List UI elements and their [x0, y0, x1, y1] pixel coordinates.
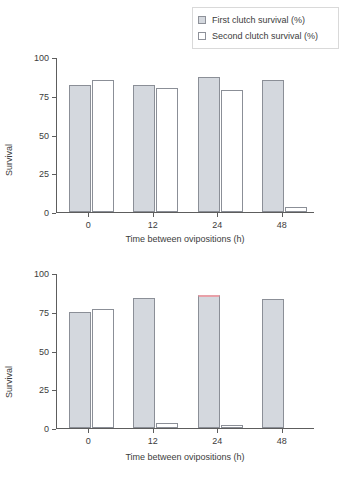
bar-bottom-48h-series1: [262, 299, 284, 428]
bar-top-12h-series2: [156, 88, 178, 212]
x-tick-48: [282, 213, 283, 217]
legend-label-first-clutch: First clutch survival (%): [212, 15, 305, 25]
y-tick-25: [52, 174, 56, 175]
y-tick-100: [52, 58, 56, 59]
x-axis-line-bottom: [56, 428, 314, 429]
y-tick-0: [52, 429, 56, 430]
y-tick-label-0: 0: [44, 209, 49, 218]
y-tick-label-25: 25: [39, 386, 49, 395]
x-tick-0: [88, 429, 89, 433]
plot-area-bottom: 02550751000122448: [56, 274, 314, 429]
bar-bottom-12h-series2: [156, 423, 178, 428]
y-tick-75: [52, 313, 56, 314]
y-tick-0: [52, 213, 56, 214]
bar-bottom-0h-series1: [69, 312, 91, 428]
x-tick-label-12: 12: [148, 437, 158, 446]
y-tick-label-75: 75: [39, 309, 49, 318]
chart-panel-bottom: Survival 02550751000122448 Time between …: [0, 262, 342, 478]
y-tick-label-75: 75: [39, 93, 49, 102]
chart-panel-top: Survival 02550751000122448 Time between …: [0, 46, 342, 254]
x-tick-0: [88, 213, 89, 217]
bar-top-0h-series2: [92, 80, 114, 212]
bar-top-24h-series2: [221, 90, 243, 212]
y-axis-label-top: Survival: [4, 144, 16, 176]
bar-top-12h-series1: [133, 85, 155, 212]
legend-entry-first-clutch: First clutch survival (%): [198, 13, 334, 27]
legend-entry-second-clutch: Second clutch survival (%): [198, 29, 334, 43]
x-tick-24: [217, 429, 218, 433]
x-tick-24: [217, 213, 218, 217]
bar-top-48h-series1: [262, 80, 284, 212]
y-axis-line-bottom: [56, 274, 57, 429]
x-tick-12: [153, 213, 154, 217]
y-tick-label-100: 100: [34, 270, 49, 279]
y-tick-label-50: 50: [39, 348, 49, 357]
plot-area-top: 02550751000122448: [56, 58, 314, 213]
bar-top-24h-series1: [198, 77, 220, 212]
y-axis-label-bottom: Survival: [4, 366, 16, 398]
legend-swatch-white-icon: [198, 32, 206, 40]
x-tick-label-12: 12: [148, 221, 158, 230]
y-tick-50: [52, 352, 56, 353]
y-axis-line-top: [56, 58, 57, 213]
x-tick-label-48: 48: [277, 221, 287, 230]
x-axis-label-bottom: Time between ovipositions (h): [56, 452, 314, 462]
bar-top-0h-series1: [69, 85, 91, 212]
y-tick-75: [52, 97, 56, 98]
bar-bottom-24h-series2: [221, 425, 243, 428]
x-tick-label-48: 48: [277, 437, 287, 446]
y-tick-label-0: 0: [44, 425, 49, 434]
y-tick-label-50: 50: [39, 132, 49, 141]
y-tick-label-25: 25: [39, 170, 49, 179]
x-tick-label-24: 24: [212, 221, 222, 230]
x-tick-label-0: 0: [86, 437, 91, 446]
y-tick-label-100: 100: [34, 54, 49, 63]
legend-label-second-clutch: Second clutch survival (%): [212, 31, 318, 41]
x-tick-48: [282, 429, 283, 433]
x-tick-12: [153, 429, 154, 433]
legend-swatch-gray-icon: [198, 16, 206, 24]
x-axis-line-top: [56, 212, 314, 213]
y-tick-25: [52, 390, 56, 391]
x-tick-label-0: 0: [86, 221, 91, 230]
bar-bottom-0h-series2: [92, 309, 114, 428]
y-tick-50: [52, 136, 56, 137]
chart-legend: First clutch survival (%) Second clutch …: [192, 7, 339, 49]
bar-bottom-24h-series1: [198, 295, 220, 428]
bar-bottom-12h-series1: [133, 298, 155, 428]
y-tick-100: [52, 274, 56, 275]
x-tick-label-24: 24: [212, 437, 222, 446]
x-axis-label-top: Time between ovipositions (h): [56, 234, 314, 244]
bar-top-48h-series2: [285, 207, 307, 212]
